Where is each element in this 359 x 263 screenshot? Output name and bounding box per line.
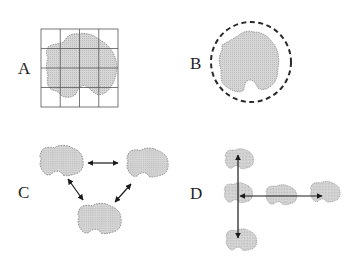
diagram-canvas xyxy=(0,0,359,263)
panel-label-c: C xyxy=(18,184,29,201)
shape-top-left xyxy=(40,145,83,175)
panel-label-d: D xyxy=(190,185,202,202)
panel-b xyxy=(211,22,291,102)
panel-d xyxy=(224,149,340,251)
panel-label-b: B xyxy=(190,55,201,72)
grid xyxy=(41,29,118,107)
irregular-shape xyxy=(219,31,279,92)
panel-label-a: A xyxy=(18,60,30,77)
shape-right xyxy=(311,181,341,202)
arrow-left xyxy=(68,179,83,200)
shape-bottom xyxy=(226,229,257,251)
shape-top-right xyxy=(127,148,168,177)
shape-bottom xyxy=(78,203,121,233)
panel-c xyxy=(40,145,168,233)
shape-middle xyxy=(266,185,297,205)
shape-top xyxy=(225,149,253,169)
panel-a xyxy=(41,29,118,107)
arrow-right xyxy=(115,184,131,202)
